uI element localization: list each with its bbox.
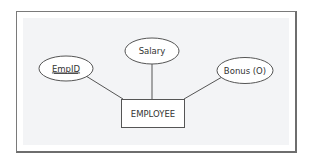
attribute-bonus: Bonus (O) xyxy=(217,58,273,84)
attribute-empid: EmpID xyxy=(39,56,93,81)
connector-empid-employee xyxy=(86,76,123,99)
attribute-bonus-label: Bonus (O) xyxy=(224,66,266,76)
connector-bonus-employee xyxy=(184,77,222,99)
entity-employee: EMPLOYEE xyxy=(122,100,185,128)
er-diagram: EmpID Salary Bonus (O) EMPLOYEE xyxy=(0,0,313,157)
entity-employee-label: EMPLOYEE xyxy=(131,109,175,119)
attribute-empid-label: EmpID xyxy=(52,64,81,74)
attribute-salary: Salary xyxy=(125,38,179,64)
attribute-salary-label: Salary xyxy=(139,46,166,56)
